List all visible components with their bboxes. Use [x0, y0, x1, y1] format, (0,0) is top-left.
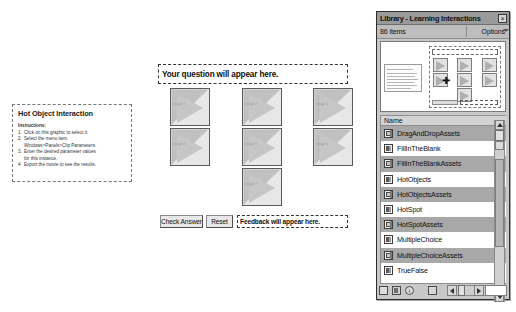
hot-object-label: image 5 — [245, 142, 257, 146]
library-item-count: 86 items — [377, 28, 406, 35]
authoring-stage: Your question will appear here. image 1 … — [158, 64, 348, 236]
list-item[interactable]: MultipleChoiceAssets — [381, 248, 506, 263]
list-item[interactable]: FillInTheBlank — [381, 141, 506, 156]
list-item[interactable]: DragAndDropAssets — [381, 126, 506, 141]
step-text: Enter the desired parameter values — [24, 149, 96, 154]
hot-object-5[interactable]: image 5 — [242, 128, 282, 166]
close-icon[interactable]: × — [498, 14, 507, 23]
hot-object-7[interactable]: image 7 — [242, 168, 282, 206]
list-item-label: HotSpotAssets — [393, 220, 443, 229]
cursor-icon: ✚ — [441, 76, 450, 85]
preview-feedback-field — [460, 100, 498, 105]
scroll-up-button[interactable] — [495, 120, 504, 130]
instruction-step: 4.Export the movie to see the results. — [18, 162, 126, 169]
chevron-down-icon[interactable] — [503, 29, 509, 32]
preview-hot-object — [457, 73, 472, 87]
scrollbar-track[interactable] — [495, 159, 504, 247]
new-folder-icon[interactable] — [392, 286, 401, 295]
preview-stage — [429, 46, 501, 108]
preview-instruction-panel — [384, 64, 422, 92]
hot-object-4[interactable]: image 4 — [170, 128, 210, 166]
preview-hot-object — [457, 58, 472, 72]
scroll-left-button[interactable] — [447, 285, 457, 296]
list-item-label: FillInTheBlankAssets — [393, 159, 461, 168]
hscrollbar-thumb[interactable] — [458, 285, 465, 296]
image-placeholder-icon — [171, 129, 209, 165]
hot-object-label: image 4 — [173, 142, 185, 146]
image-placeholder-icon — [171, 89, 209, 125]
question-text-field[interactable]: Your question will appear here. — [158, 64, 348, 84]
symbol-icon — [384, 266, 393, 275]
list-item[interactable]: HotSpot — [381, 202, 506, 217]
step-text: Select the menu item — [24, 136, 67, 141]
trash-icon[interactable] — [428, 286, 437, 295]
hot-object-1[interactable]: image 1 — [170, 88, 210, 126]
symbol-icon — [384, 175, 393, 184]
list-item[interactable]: HotObjects — [381, 172, 506, 187]
scrollbar-thumb-secondary[interactable] — [495, 141, 504, 150]
list-item[interactable]: MultipleChoice — [381, 232, 506, 247]
symbol-icon — [384, 235, 393, 244]
preview-hot-object — [433, 58, 448, 72]
properties-icon[interactable]: i — [405, 286, 414, 295]
image-placeholder-icon — [314, 129, 352, 165]
list-item[interactable]: HotObjectsAssets — [381, 187, 506, 202]
list-item-label: MultipleChoiceAssets — [393, 251, 463, 260]
image-placeholder-icon — [243, 169, 281, 205]
folder-icon — [384, 190, 393, 199]
hot-object-2[interactable]: image 2 — [242, 88, 282, 126]
hot-object-label: image 7 — [245, 182, 257, 186]
list-item-label: HotObjects — [393, 175, 431, 184]
column-header-name: Name — [381, 117, 403, 124]
folder-icon — [384, 129, 393, 138]
list-item[interactable]: TrueFalse — [381, 263, 506, 278]
chevron-up-icon — [497, 123, 503, 127]
step-text: Click on this graphic to select it. — [24, 130, 88, 135]
new-symbol-icon[interactable] — [379, 286, 388, 295]
feedback-text-field[interactable]: Feedback will appear here. — [237, 215, 348, 228]
list-item-label: FillInTheBlank — [393, 144, 440, 153]
hot-object-6[interactable]: image 6 — [313, 128, 353, 166]
reset-button[interactable]: Reset — [206, 215, 233, 228]
scrollbar-thumb[interactable] — [495, 130, 504, 141]
list-item-label: MultipleChoice — [393, 235, 442, 244]
symbol-icon — [384, 144, 393, 153]
library-item-list[interactable]: DragAndDropAssets FillInTheBlank FillInT… — [380, 126, 506, 284]
folder-icon — [384, 159, 393, 168]
scroll-right-button[interactable] — [474, 285, 484, 296]
hot-object-label: image 6 — [316, 142, 328, 146]
library-window[interactable]: Library - Learning Interactions × 86 ite… — [376, 11, 510, 300]
preview-question-field — [432, 49, 498, 55]
resize-grip[interactable] — [485, 285, 507, 296]
list-item-label: HotSpot — [393, 205, 422, 214]
instruction-panel-title: Hot Object Interaction — [18, 109, 126, 118]
library-preview-pane: ✚ — [380, 41, 506, 112]
divider — [466, 26, 467, 37]
hot-object-3[interactable]: image 3 — [313, 88, 353, 126]
hot-objects-grid: image 1 image 2 image 3 image 4 image 5 … — [158, 88, 348, 210]
preview-hot-object — [482, 58, 497, 72]
list-item[interactable]: HotSpotAssets — [381, 217, 506, 232]
stage-buttons-row: Check Answer Reset Feedback will appear … — [158, 215, 348, 229]
instruction-panel-subtitle: Instructions: — [18, 123, 126, 128]
folder-icon — [384, 251, 393, 260]
hot-object-label: image 2 — [245, 102, 257, 106]
instruction-panel[interactable]: Hot Object Interaction Instructions: 1.C… — [12, 104, 132, 182]
chevron-left-icon — [450, 288, 454, 294]
library-titlebar[interactable]: Library - Learning Interactions × — [377, 12, 509, 25]
instruction-steps-list: 1.Click on this graphic to select it. 2.… — [18, 130, 126, 169]
options-menu-button[interactable]: Options — [482, 28, 505, 35]
list-item-label: DragAndDropAssets — [393, 129, 460, 138]
library-vertical-scrollbar[interactable] — [494, 120, 505, 302]
step-text: Export the movie to see the results. — [24, 162, 96, 167]
image-placeholder-icon — [243, 89, 281, 125]
image-placeholder-icon — [243, 129, 281, 165]
image-placeholder-icon — [314, 89, 352, 125]
library-list-header[interactable]: Name — [380, 115, 506, 126]
hot-object-label: image 3 — [316, 102, 328, 106]
list-item[interactable]: FillInTheBlankAssets — [381, 156, 506, 171]
list-item-label: TrueFalse — [393, 266, 428, 275]
preview-hot-object — [482, 73, 497, 87]
check-answer-button[interactable]: Check Answer — [160, 215, 203, 228]
library-horizontal-scrollbar[interactable] — [447, 285, 507, 296]
